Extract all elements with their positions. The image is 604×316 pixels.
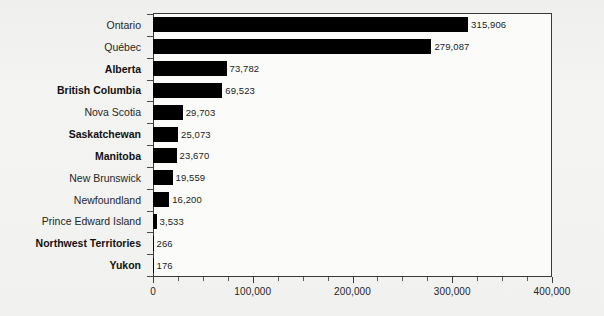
value-axis-labels: 0100,000200,000300,000400,000 — [0, 286, 604, 302]
bar — [153, 39, 431, 54]
category-label: Saskatchewan — [0, 123, 147, 145]
value-axis-major-tick — [253, 277, 254, 283]
category-axis-tick — [147, 101, 153, 102]
category-axis-tick — [147, 36, 153, 37]
bar — [153, 61, 227, 76]
value-axis-label: 0 — [150, 286, 156, 297]
bar — [153, 127, 178, 142]
bar-row: 19,559 — [153, 167, 552, 189]
bar-row: 176 — [153, 254, 552, 276]
category-label: Prince Edward Island — [0, 211, 147, 233]
bar — [153, 83, 222, 98]
category-axis-labels: OntarioQuébecAlbertaBritish ColumbiaNova… — [0, 14, 147, 276]
bar — [153, 148, 177, 163]
category-label: British Columbia — [0, 80, 147, 102]
value-axis-minor-tick — [427, 277, 428, 281]
bar — [153, 214, 157, 229]
bar-value-label: 3,533 — [160, 216, 184, 227]
bar-row: 315,906 — [153, 14, 552, 36]
bar — [153, 105, 183, 120]
value-axis-minor-tick — [178, 277, 179, 281]
bar — [153, 192, 169, 207]
value-axis-minor-tick — [477, 277, 478, 281]
bar-value-label: 19,559 — [176, 172, 206, 183]
value-axis-minor-tick — [203, 277, 204, 281]
bar-row: 29,703 — [153, 101, 552, 123]
category-label: Newfoundland — [0, 189, 147, 211]
bar-chart: OntarioQuébecAlbertaBritish ColumbiaNova… — [0, 0, 604, 316]
category-label: Alberta — [0, 58, 147, 80]
category-axis-tick — [147, 254, 153, 255]
bar-value-label: 25,073 — [181, 129, 211, 140]
bar-value-label: 266 — [157, 238, 173, 249]
value-axis-major-tick — [452, 277, 453, 283]
category-label: New Brunswick — [0, 167, 147, 189]
category-label: Ontario — [0, 14, 147, 36]
category-label: Yukon — [0, 254, 147, 276]
category-axis-tick — [147, 58, 153, 59]
category-axis-tick — [147, 14, 153, 15]
bar — [153, 236, 154, 251]
value-axis-label: 100,000 — [234, 286, 271, 297]
bar-series: 315,906279,08773,78269,52329,70325,07323… — [153, 14, 552, 276]
bar-value-label: 73,782 — [230, 63, 260, 74]
bar-value-label: 176 — [157, 260, 173, 271]
value-axis-minor-tick — [278, 277, 279, 281]
value-axis-minor-tick — [303, 277, 304, 281]
category-axis-tick — [147, 80, 153, 81]
bar-row: 73,782 — [153, 58, 552, 80]
bar-row: 16,200 — [153, 189, 552, 211]
bar-value-label: 279,087 — [434, 41, 469, 52]
category-axis-tick — [147, 276, 153, 277]
value-axis-minor-tick — [527, 277, 528, 281]
category-axis-tick — [147, 189, 153, 190]
category-label: Manitoba — [0, 145, 147, 167]
bar-value-label: 315,906 — [471, 19, 506, 30]
category-axis-tick — [147, 123, 153, 124]
bar — [153, 170, 173, 185]
value-axis-label: 300,000 — [434, 286, 471, 297]
bar-value-label: 23,670 — [180, 150, 210, 161]
category-axis-tick — [147, 232, 153, 233]
value-axis-label: 200,000 — [334, 286, 371, 297]
category-axis-tick — [147, 167, 153, 168]
category-axis-tick — [147, 145, 153, 146]
bar-row: 3,533 — [153, 211, 552, 233]
bar-row: 69,523 — [153, 80, 552, 102]
bar — [153, 17, 468, 32]
value-axis-label: 400,000 — [534, 286, 571, 297]
category-label: Northwest Territories — [0, 232, 147, 254]
value-axis-major-tick — [552, 277, 553, 283]
value-axis-minor-tick — [377, 277, 378, 281]
value-axis-minor-tick — [228, 277, 229, 281]
value-axis-major-tick — [153, 277, 154, 283]
value-axis-minor-tick — [402, 277, 403, 281]
category-label: Québec — [0, 36, 147, 58]
bar-row: 279,087 — [153, 36, 552, 58]
value-axis-minor-tick — [502, 277, 503, 281]
value-axis-minor-tick — [328, 277, 329, 281]
bar-value-label: 69,523 — [225, 85, 255, 96]
bar-row: 23,670 — [153, 145, 552, 167]
bar — [153, 258, 154, 273]
category-axis-tick — [147, 211, 153, 212]
bar-row: 25,073 — [153, 123, 552, 145]
value-axis-ticks — [153, 277, 552, 285]
bar-value-label: 16,200 — [172, 194, 202, 205]
bar-value-label: 29,703 — [186, 107, 216, 118]
category-label: Nova Scotia — [0, 101, 147, 123]
bar-row: 266 — [153, 232, 552, 254]
value-axis-major-tick — [353, 277, 354, 283]
